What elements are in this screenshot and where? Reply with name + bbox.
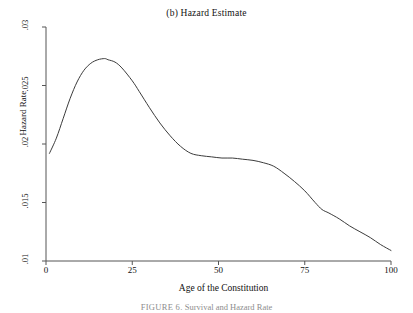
- y-tick-label: .02: [12, 137, 38, 147]
- y-tick-label: .015: [12, 196, 38, 206]
- figure-caption-label: FIGURE 6.: [141, 302, 183, 312]
- y-tick-label: .025: [12, 79, 38, 89]
- y-tick-label: .03: [12, 20, 38, 30]
- hazard-estimate-plot: [0, 0, 413, 313]
- x-tick-label: 100: [384, 265, 398, 275]
- x-tick-label: 25: [128, 265, 137, 275]
- figure-caption: FIGURE 6. Survival and Hazard Rate: [0, 302, 413, 313]
- figure-root: (b) Hazard Estimate Hazard Rate Age of t…: [0, 0, 413, 313]
- y-tick-label: .01: [12, 254, 38, 264]
- x-tick-label: 75: [300, 265, 309, 275]
- x-axis-label-text: Age of the Constitution: [179, 283, 268, 293]
- x-tick-label: 50: [214, 265, 223, 275]
- figure-caption-text: Survival and Hazard Rate: [185, 302, 273, 312]
- x-tick-label: 0: [44, 265, 49, 275]
- hazard-rate-curve: [49, 59, 391, 251]
- x-axis-label: Age of the Constitution: [46, 283, 413, 293]
- y-axis-tick-marks: [42, 27, 46, 261]
- plot-axes: [46, 27, 391, 261]
